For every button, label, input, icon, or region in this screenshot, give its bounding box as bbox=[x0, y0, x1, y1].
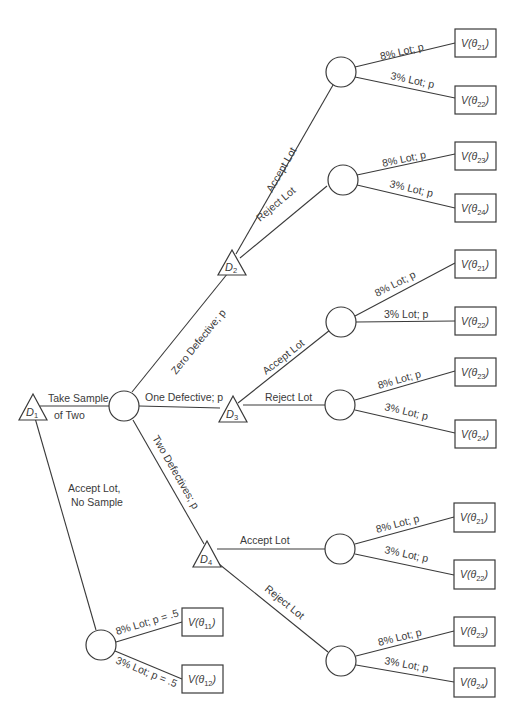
terminal-v23-f: V(θ23) bbox=[454, 617, 495, 646]
decision-node-d2: D2 bbox=[218, 250, 246, 275]
chance-node-sample bbox=[109, 391, 139, 421]
label-c-3: 3% Lot; p bbox=[384, 308, 429, 320]
label-accept-no-sample-1: Accept Lot, bbox=[68, 482, 121, 494]
terminal-v24-b: V(θ24) bbox=[455, 194, 496, 222]
chance-node-no-sample bbox=[86, 630, 116, 660]
terminal-v24-f: V(θ24) bbox=[454, 668, 495, 697]
decision-tree-diagram: D1 D2 D3 D4 V(θ21) V(θ22) V(θ23) V(θ24) … bbox=[0, 0, 517, 718]
label-zero-defective: Zero Defective; p bbox=[168, 306, 228, 376]
edge-zero-defective bbox=[132, 273, 228, 392]
chance-node-e bbox=[325, 534, 355, 564]
terminal-v21-a: V(θ21) bbox=[455, 29, 496, 57]
chance-node-b bbox=[328, 165, 358, 195]
label-c-8: 8% Lot; p bbox=[372, 268, 417, 299]
label-of-two: of Two bbox=[54, 409, 85, 421]
label-a-3: 3% Lot; p bbox=[390, 69, 436, 90]
label-b-8: 8% Lot; p bbox=[381, 148, 427, 169]
edge-c-3 bbox=[356, 321, 455, 322]
terminal-v24-d: V(θ24) bbox=[455, 420, 496, 448]
chance-node-d bbox=[325, 390, 355, 420]
label-ns-3: 3% Lot; p = .5 bbox=[114, 654, 179, 690]
label-take-sample: Take Sample bbox=[48, 392, 109, 404]
label-two-defectives: Two Defectives; p bbox=[150, 433, 202, 511]
label-d4-reject: Reject Lot bbox=[263, 582, 307, 621]
decision-node-d1: D1 bbox=[19, 394, 47, 420]
terminal-v21-c: V(θ21) bbox=[455, 250, 496, 278]
label-d3-reject: Reject Lot bbox=[265, 391, 312, 403]
label-a-8: 8% Lot; p bbox=[379, 40, 425, 62]
edge-d4-reject bbox=[214, 560, 328, 652]
label-d3-accept: Accept Lot bbox=[260, 337, 307, 377]
terminal-v11: V(θ11) bbox=[182, 608, 223, 636]
terminal-v22-c: V(θ22) bbox=[455, 307, 496, 335]
label-e-8: 8% Lot; p bbox=[374, 512, 420, 535]
terminal-v22-e: V(θ22) bbox=[454, 560, 495, 589]
chance-node-f bbox=[326, 646, 356, 676]
label-b-3: 3% Lot; p bbox=[389, 177, 435, 199]
terminal-v23-b: V(θ23) bbox=[455, 142, 496, 170]
edge-two-defectives bbox=[133, 420, 204, 544]
edge-no-sample bbox=[35, 418, 96, 630]
edge-one-defective bbox=[139, 406, 220, 408]
terminal-v23-d: V(θ23) bbox=[455, 358, 496, 386]
chance-node-c bbox=[326, 307, 356, 337]
decision-node-d4: D4 bbox=[193, 541, 221, 567]
label-accept-no-sample-2: No Sample bbox=[71, 496, 123, 508]
terminal-v21-e: V(θ21) bbox=[454, 503, 495, 532]
label-d2-accept: Accept Lot bbox=[263, 145, 298, 194]
chance-node-a bbox=[326, 57, 356, 87]
label-d4-accept: Accept Lot bbox=[240, 534, 290, 546]
terminal-v22-a: V(θ22) bbox=[455, 86, 496, 114]
label-one-defective: One Defective; p bbox=[145, 391, 223, 403]
terminal-v12: V(θ12) bbox=[182, 665, 223, 693]
